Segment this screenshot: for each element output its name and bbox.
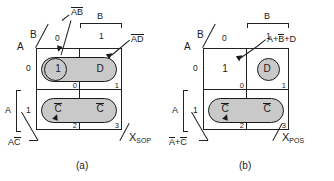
kmap-cell-3[interactable]: C 3 bbox=[79, 89, 121, 129]
leader-b-right-tail bbox=[257, 39, 266, 47]
kmap-cell-0-index: 0 bbox=[73, 82, 77, 90]
axis-label-b: B bbox=[30, 30, 37, 40]
row-bit-0: 0 bbox=[26, 64, 31, 73]
col-bit-0-b: 0 bbox=[222, 34, 227, 43]
caption-b: (b) bbox=[239, 161, 251, 171]
figure-b: A+B+D B A 0 B 1 0 A 1 1 0 D 1 bbox=[167, 0, 334, 181]
callout-a-not-b-not-text: AB bbox=[71, 7, 83, 17]
output-subscript-pos: POS bbox=[289, 137, 304, 144]
callout-anot-or-cnot: A+C bbox=[169, 137, 187, 147]
callout-b-bot-part3: C bbox=[180, 137, 187, 147]
kmap-cell-0[interactable]: 1 0 bbox=[37, 49, 79, 89]
col-group-label-b-b: B bbox=[264, 12, 270, 21]
output-label-pos: XPOS bbox=[282, 132, 304, 143]
kmap-cell-3-b-index: 3 bbox=[282, 122, 286, 130]
bracket-row-a bbox=[16, 90, 21, 132]
col-bit-1-b: 1 bbox=[266, 32, 271, 41]
row-group-label-a: A bbox=[5, 106, 11, 115]
kmap-cell-1[interactable]: D 1 bbox=[79, 49, 121, 89]
callout-a-c-not: AC bbox=[8, 137, 21, 147]
axis-label-a: A bbox=[17, 42, 24, 52]
callout-a-not-d: AD bbox=[131, 34, 144, 44]
axis-diagonal bbox=[35, 24, 49, 48]
leader-a-not-b-not-tail bbox=[62, 15, 70, 21]
col-bit-1: 1 bbox=[99, 32, 104, 41]
row-bit-1: 1 bbox=[26, 106, 31, 115]
kmap-cell-0-b-index: 0 bbox=[240, 82, 244, 90]
kmap-cell-1-b[interactable]: D 1 bbox=[246, 49, 288, 89]
kmap-cell-3-b[interactable]: C 3 bbox=[246, 89, 288, 129]
kmap-cell-2-b[interactable]: C 2 bbox=[204, 89, 246, 129]
callout-a-not-b-not: AB bbox=[71, 7, 83, 17]
kmap-cell-3-index: 3 bbox=[115, 122, 119, 130]
kmap-cell-1-index: 1 bbox=[115, 82, 119, 90]
axis-diagonal-b bbox=[202, 24, 216, 48]
kmap-a: 1 0 D 1 C 2 C 3 bbox=[36, 48, 122, 130]
output-label-sop: XSOP bbox=[129, 132, 151, 143]
leader-a-not-d-tail bbox=[122, 40, 130, 47]
callout-a-not-d-text: AD bbox=[131, 34, 144, 44]
axis-label-b-b: B bbox=[197, 30, 204, 40]
kmap-cell-2[interactable]: C 2 bbox=[37, 89, 79, 129]
figure-a: AB AD B A 0 B 1 0 A 1 1 0 bbox=[0, 0, 167, 181]
bracket-row-a-b bbox=[183, 90, 188, 132]
row-group-label-a-b: A bbox=[172, 106, 178, 115]
col-bit-0: 0 bbox=[55, 34, 60, 43]
bracket-col-b bbox=[80, 23, 122, 28]
callout-b-part3: +D bbox=[284, 34, 296, 44]
axis-label-a-b: A bbox=[184, 42, 191, 52]
row-bit-1-b: 1 bbox=[193, 106, 198, 115]
kmap-cell-2-b-index: 2 bbox=[240, 122, 244, 130]
caption-a: (a) bbox=[76, 161, 88, 171]
output-subscript-sop: SOP bbox=[136, 137, 151, 144]
bracket-col-b-b bbox=[247, 23, 289, 28]
kmap-cell-2-index: 2 bbox=[73, 122, 77, 130]
kmap-b: 1 0 D 1 C 2 C 3 bbox=[203, 48, 289, 130]
kmap-cell-1-b-index: 1 bbox=[282, 82, 286, 90]
callout-a-c-not-c: C bbox=[14, 137, 21, 147]
callout-a-or-bnot-or-d: A+B+D bbox=[267, 34, 296, 44]
col-group-label-b: B bbox=[97, 12, 103, 21]
row-bit-0-b: 0 bbox=[193, 64, 198, 73]
